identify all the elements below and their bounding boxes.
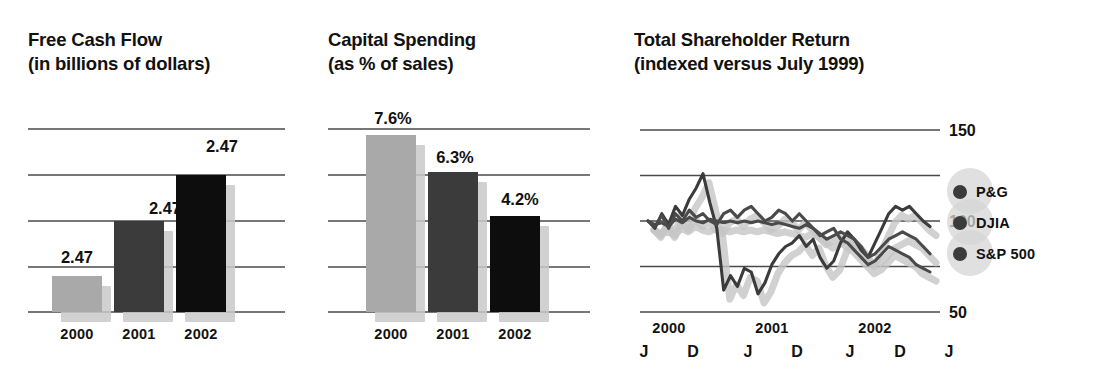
x-axis-month-label-4: J: [846, 343, 855, 360]
bar-2000: [52, 276, 102, 312]
x-axis-year-label-2001: 2001: [755, 320, 788, 336]
bar-category-label-2000: 2000: [60, 326, 93, 342]
bar-2000: [366, 135, 416, 312]
x-axis-month-label-6: J: [945, 343, 954, 360]
bar-category-label-2002: 2002: [184, 326, 217, 342]
bar-value-label-2000: 2.47: [61, 248, 93, 266]
bar-category-label-2001: 2001: [436, 326, 469, 342]
x-axis-month-label-3: D: [791, 343, 803, 360]
series-shadow-P&G: [654, 183, 936, 303]
x-axis-month-label-2: J: [744, 343, 753, 360]
x-axis-month-label-1: D: [687, 343, 699, 360]
legend-label-djia: DJIA: [976, 215, 1010, 231]
bar-category-label-2002: 2002: [498, 326, 531, 342]
legend-label-sp500: S&P 500: [976, 246, 1035, 262]
bar-value-label-2002: 2.47: [206, 137, 238, 155]
bar-2001: [114, 221, 164, 312]
bar-value-label-2001: 6.3%: [436, 148, 474, 166]
legend-dot-icon-png: [953, 185, 967, 199]
chart-panel-free-cash-flow: Free Cash Flow (in billions of dollars) …: [0, 0, 300, 375]
plot-area-free-cash-flow: 2.4720002.4720012.472002: [0, 0, 300, 375]
legend-item-sp500[interactable]: S&P 500: [953, 238, 1103, 269]
legend-dot-icon-sp500: [953, 247, 967, 261]
bar-2002: [176, 175, 226, 312]
chart-legend: P&G DJIA S&P 500: [953, 176, 1103, 269]
y-axis-label-150: 150: [949, 122, 976, 139]
plot-area-capital-spending: 7.6%20006.3%20014.2%2002: [300, 0, 600, 375]
x-axis-year-label-2000: 2000: [652, 320, 685, 336]
legend-label-png: P&G: [976, 184, 1008, 200]
bar-value-label-2000: 7.6%: [374, 109, 412, 127]
bar-2001: [428, 172, 478, 312]
chart-panel-capital-spending: Capital Spending (as % of sales) 7.6%200…: [300, 0, 600, 375]
x-axis-year-label-2002: 2002: [858, 320, 891, 336]
bar-value-label-2002: 4.2%: [501, 190, 539, 208]
legend-dot-icon-djia: [953, 216, 967, 230]
bar-category-label-2001: 2001: [122, 326, 155, 342]
y-axis-label-50: 50: [949, 304, 967, 321]
x-axis-month-label-5: D: [894, 343, 906, 360]
bar-category-label-2000: 2000: [374, 326, 407, 342]
bar-2002: [490, 216, 540, 312]
x-axis-month-label-0: J: [640, 343, 649, 360]
